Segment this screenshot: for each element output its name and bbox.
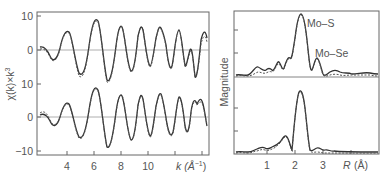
xtick-label: 1 <box>264 159 270 171</box>
xtick-label: 6 <box>91 160 97 172</box>
bottom-right-experiment-line <box>236 91 378 152</box>
ytick-label: −10 <box>15 145 33 157</box>
ytick-label: 10 <box>21 10 33 22</box>
right-x-axis-label-unit: (Å) <box>354 159 368 171</box>
left-panel: 10 0 10 0 −10 4 6 8 10 k (Å−1) χ(k)×k3 <box>4 10 209 172</box>
left-y-ticks <box>37 16 41 151</box>
xtick-label: 3 <box>320 159 326 171</box>
xtick-label: 8 <box>118 160 124 172</box>
xtick-label: 4 <box>64 160 70 172</box>
right-y-ticks <box>234 30 238 131</box>
left-x-axis-label: k (Å−1) <box>176 160 206 172</box>
annotation-mo-s: Mo–S <box>307 17 334 29</box>
annotation-mo-se: Mo–Se <box>315 47 348 59</box>
left-x-ticks <box>67 151 202 155</box>
right-x-axis-label-r: R <box>343 159 351 171</box>
figure: 10 0 10 0 −10 4 6 8 10 k (Å−1) χ(k)×k3 <box>0 0 388 183</box>
ytick-label: 10 <box>21 78 33 90</box>
ytick-label: 0 <box>27 44 33 56</box>
xtick-label: 10 <box>142 160 154 172</box>
left-y-axis-label: χ(k)×k3 <box>4 67 16 100</box>
top-fit-line <box>40 21 207 82</box>
right-panel: 1 2 3 R (Å) Magnitude Mo–S Mo–Se <box>218 11 379 171</box>
bottom-experiment-line <box>40 88 207 148</box>
right-y-axis-label: Magnitude <box>218 57 230 106</box>
bottom-fit-line <box>40 89 207 148</box>
xtick-label: 2 <box>292 159 298 171</box>
ytick-label: 0 <box>27 111 33 123</box>
